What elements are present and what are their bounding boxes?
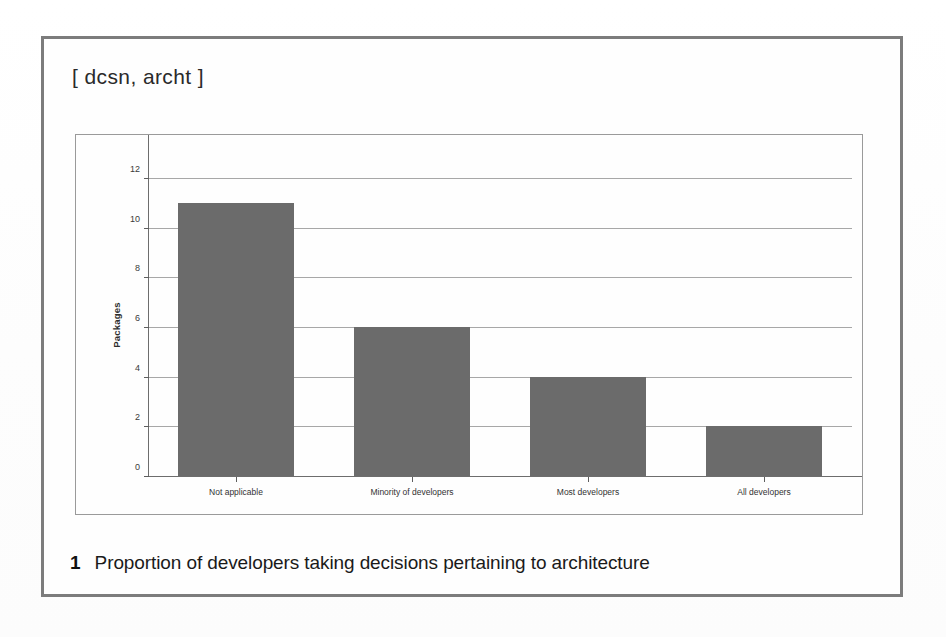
figure-tag-label: [ dcsn, archt ] (72, 65, 204, 89)
chart-area: Packages 024681012Not applicableMinority… (75, 134, 863, 515)
y-tick-mark (144, 327, 149, 328)
figure-caption: 1 Proportion of developers taking decisi… (70, 552, 650, 574)
x-tick-mark (764, 477, 765, 482)
y-tick-mark (144, 178, 149, 179)
x-tick-label: All developers (737, 487, 790, 497)
y-tick-label: 8 (135, 263, 140, 273)
y-tick-mark (144, 426, 149, 427)
bar (178, 203, 294, 476)
caption-number: 1 (70, 552, 81, 574)
bar (706, 426, 822, 476)
y-tick-label: 2 (135, 412, 140, 422)
bar (530, 377, 646, 476)
y-tick-mark (144, 277, 149, 278)
x-tick-label: Not applicable (209, 487, 263, 497)
y-tick-label: 6 (135, 313, 140, 323)
gridline (148, 178, 852, 179)
y-tick-label: 0 (135, 462, 140, 472)
y-axis-title: Packages (111, 302, 122, 347)
x-tick-label: Most developers (557, 487, 619, 497)
gridline (148, 476, 852, 477)
y-tick-label: 12 (130, 164, 140, 174)
y-tick-mark (144, 476, 149, 477)
x-tick-label: Minority of developers (370, 487, 453, 497)
x-tick-mark (588, 477, 589, 482)
y-tick-label: 10 (130, 214, 140, 224)
y-tick-label: 4 (135, 363, 140, 373)
x-tick-mark (412, 477, 413, 482)
caption-text: Proportion of developers taking decision… (95, 552, 650, 574)
figure-frame: [ dcsn, archt ] Packages 024681012Not ap… (41, 36, 903, 597)
plot-region: 024681012Not applicableMinority of devel… (148, 154, 852, 477)
y-tick-mark (144, 228, 149, 229)
x-tick-mark (236, 477, 237, 482)
bar (354, 327, 470, 476)
y-tick-mark (144, 377, 149, 378)
